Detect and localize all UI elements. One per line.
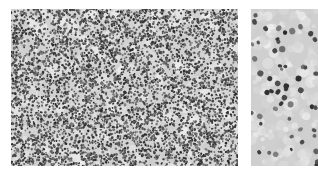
micrograph-high-magnification [251, 9, 318, 166]
tissue-image-right [251, 9, 318, 166]
micrograph-low-magnification [11, 9, 238, 166]
tissue-image-left [11, 9, 238, 166]
